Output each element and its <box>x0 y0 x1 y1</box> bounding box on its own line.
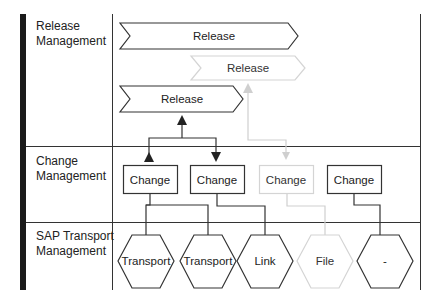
release-label-2: Release <box>227 62 269 74</box>
object-label-3: Link <box>254 255 275 267</box>
lane-label-release: Release Management <box>36 19 106 49</box>
lane-label-line: Management <box>36 244 114 259</box>
object-label-4: File <box>316 255 335 267</box>
change-label-3: Change <box>266 174 306 186</box>
change-label-4: Change <box>334 174 374 186</box>
object-label-2: Transport <box>184 255 234 267</box>
release-label-3: Release <box>161 93 203 105</box>
lane-label-line: Management <box>36 34 106 49</box>
lane-label-transport: SAP Transport Management <box>36 229 114 259</box>
release-label-1: Release <box>193 30 235 42</box>
lane-label-line: SAP Transport <box>36 229 114 244</box>
lane-label-line: Release <box>36 19 106 34</box>
object-label-5: - <box>383 255 387 267</box>
faded-arrow-down-icon <box>282 152 290 160</box>
change-label-2: Change <box>197 174 237 186</box>
lane-label-change: Change Management <box>36 154 106 184</box>
object-label-1: Transport <box>122 255 172 267</box>
lane-label-line: Management <box>36 169 106 184</box>
lane-header-bar <box>20 14 26 290</box>
faded-connectors <box>248 88 325 235</box>
change-label-1: Change <box>130 174 170 186</box>
lane-label-line: Change <box>36 154 106 169</box>
